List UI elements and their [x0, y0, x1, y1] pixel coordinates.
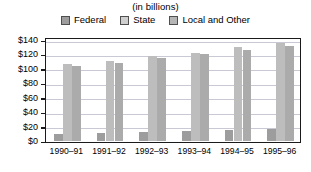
- chart-root: (in billions) Federal State Local and Ot…: [0, 0, 311, 172]
- legend-item-state: State: [120, 15, 155, 25]
- x-tick-label: 1993–94: [173, 146, 216, 156]
- gridline-horizontal: [46, 70, 300, 71]
- bar-federal: [139, 132, 148, 141]
- bar-local-and-other: [285, 46, 294, 141]
- bar-local-and-other: [115, 63, 124, 140]
- bar-group: [139, 39, 166, 142]
- gridline-horizontal: [46, 56, 300, 57]
- plot-area: [45, 38, 301, 143]
- bar-group: [182, 39, 209, 142]
- x-tick-label: 1991–92: [88, 146, 131, 156]
- y-tick-label: $80: [0, 78, 38, 88]
- bar-state: [106, 61, 115, 140]
- x-tick-label: 1992–93: [130, 146, 173, 156]
- gridline-horizontal: [46, 42, 300, 43]
- bar-state: [234, 47, 243, 140]
- legend-item-local-and-other: Local and Other: [169, 15, 250, 25]
- bar-state: [148, 56, 157, 140]
- bar-local-and-other: [72, 66, 81, 140]
- legend-label-local-and-other: Local and Other: [182, 15, 250, 25]
- bar-group: [54, 39, 81, 142]
- bar-group: [267, 39, 294, 142]
- y-tick-label: $0: [0, 136, 38, 146]
- bar-federal: [97, 133, 106, 141]
- bar-state: [63, 64, 72, 141]
- legend-swatch-icon: [169, 16, 178, 25]
- bar-local-and-other: [243, 50, 252, 141]
- y-tick-label: $120: [0, 49, 38, 59]
- bar-federal: [182, 131, 191, 140]
- x-tick-label: 1995–96: [258, 146, 301, 156]
- bar-local-and-other: [200, 54, 209, 141]
- gridline-vertical: [259, 39, 260, 142]
- y-tick-label: $20: [0, 122, 38, 132]
- bar-state: [276, 43, 285, 140]
- legend-label-federal: Federal: [74, 15, 106, 25]
- legend-label-state: State: [133, 15, 155, 25]
- y-tick-label: $40: [0, 107, 38, 117]
- y-tick-label: $100: [0, 64, 38, 74]
- legend-swatch-icon: [61, 16, 70, 25]
- bar-federal: [225, 130, 234, 141]
- gridline-vertical: [174, 39, 175, 142]
- bar-state: [191, 53, 200, 141]
- y-tick-label: $60: [0, 93, 38, 103]
- x-tick-label: 1990–91: [45, 146, 88, 156]
- gridline-horizontal: [46, 128, 300, 129]
- bar-group: [225, 39, 252, 142]
- bar-local-and-other: [157, 58, 166, 140]
- gridline-vertical: [217, 39, 218, 142]
- gridline-vertical: [89, 39, 90, 142]
- gridline-horizontal: [46, 85, 300, 86]
- chart-subtitle: (in billions): [0, 1, 311, 12]
- legend-item-federal: Federal: [61, 15, 106, 25]
- chart-legend: Federal State Local and Other: [0, 15, 311, 25]
- bar-federal: [54, 134, 63, 141]
- gridline-horizontal: [46, 114, 300, 115]
- legend-swatch-icon: [120, 16, 129, 25]
- gridline-vertical: [131, 39, 132, 142]
- y-tick-label: $140: [0, 35, 38, 45]
- x-tick-label: 1994–95: [216, 146, 259, 156]
- bar-federal: [267, 129, 276, 141]
- bar-group: [97, 39, 124, 142]
- gridline-horizontal: [46, 99, 300, 100]
